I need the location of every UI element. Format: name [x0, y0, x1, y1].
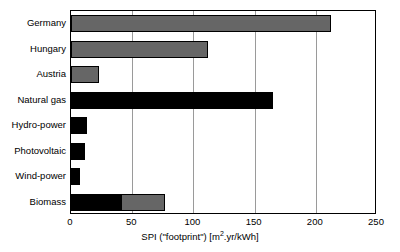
bar-row-biomass [71, 190, 165, 216]
bar-austria [71, 66, 99, 83]
bar-wind-power [71, 168, 80, 185]
x-tick-label-250: 250 [368, 216, 384, 227]
y-tick-label-hydro-power: Hydro-power [12, 112, 66, 138]
y-tick-label-natural-gas: Natural gas [17, 87, 66, 113]
bar-germany [71, 15, 331, 32]
bar-natural-gas [71, 92, 273, 109]
bar-row-austria [71, 62, 99, 88]
bar-row-hungary [71, 37, 208, 63]
bar-row-hydro-power [71, 113, 87, 139]
chart-figure: Germany Hungary Austria Natural gas Hydr… [0, 0, 400, 252]
bar-photovoltaic [71, 143, 85, 160]
y-tick-label-hungary: Hungary [30, 36, 66, 62]
bar-row-natural-gas [71, 88, 273, 114]
x-axis-title-prefix: SPI ("footprint") [m [141, 231, 220, 242]
x-tick-label-0: 0 [67, 216, 72, 227]
y-tick-label-wind-power: Wind-power [15, 163, 66, 189]
x-tick-label-150: 150 [246, 216, 262, 227]
x-axis-title: SPI ("footprint") [m2.yr/kWh] [0, 231, 400, 242]
bar-hydro-power [71, 117, 87, 134]
bar-row-wind-power [71, 164, 80, 190]
bar-biomass-segment-1 [71, 194, 122, 211]
y-tick-label-biomass: Biomass [30, 189, 66, 215]
y-tick-label-photovoltaic: Photovoltaic [14, 138, 66, 164]
x-tick-label-100: 100 [184, 216, 200, 227]
x-tick-label-50: 50 [126, 216, 137, 227]
bar-row-photovoltaic [71, 139, 85, 165]
gridline-200 [316, 11, 317, 213]
x-tick-label-200: 200 [307, 216, 323, 227]
x-axis-title-suffix: .yr/kWh] [224, 231, 259, 242]
y-tick-label-germany: Germany [27, 10, 66, 36]
bar-biomass-segment-2 [122, 194, 165, 211]
y-tick-label-austria: Austria [36, 61, 66, 87]
plot-area [70, 10, 376, 214]
bar-hungary [71, 41, 208, 58]
bar-row-germany [71, 11, 331, 37]
